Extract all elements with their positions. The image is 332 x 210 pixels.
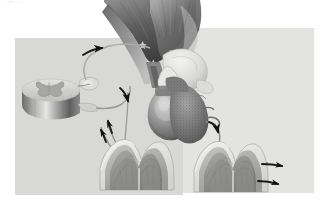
anatomical-figure: brainstem spinal cord segment pale lobe … bbox=[0, 0, 332, 210]
figure-canvas bbox=[0, 0, 332, 210]
